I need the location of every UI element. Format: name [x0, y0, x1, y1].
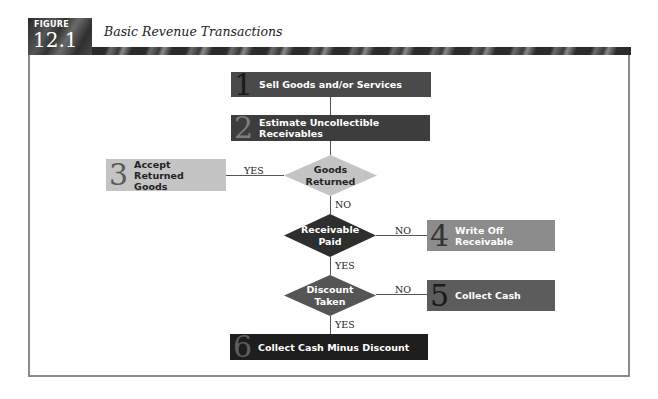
connector-d1-d2 [330, 196, 331, 214]
figure-badge: FIGURE 12.1 [28, 18, 92, 55]
step-1-box: 1 Sell Goods and/or Services [231, 72, 431, 97]
decision-label: Goods Returned [306, 164, 356, 188]
step-number: 5 [430, 283, 449, 309]
decision-label-line2: Returned [306, 176, 356, 188]
decision-receivable-paid: Receivable Paid [284, 214, 376, 257]
step-number: 2 [234, 115, 253, 141]
edge-label-goods-returned-yes: YES [244, 165, 264, 176]
step-number: 6 [233, 334, 252, 360]
decision-label-line1: Goods [306, 164, 356, 176]
step-label: Sell Goods and/or Services [259, 79, 402, 90]
step-label: Accept Returned Goods [134, 159, 214, 192]
connector-1-2 [330, 97, 331, 115]
step-4-box: 4 Write Off Receivable [427, 220, 555, 251]
step-6-box: 6 Collect Cash Minus Discount [230, 334, 428, 360]
decision-label-line1: Receivable [301, 224, 359, 236]
step-number: 4 [430, 223, 449, 249]
edge-label-goods-returned-no: NO [335, 199, 351, 210]
figure-number: 12.1 [33, 29, 78, 51]
decision-label-line1: Discount [306, 284, 353, 296]
step-label: Estimate Uncollectible Receivables [259, 117, 430, 139]
decision-label: Discount Taken [306, 284, 353, 308]
header-stripe [92, 47, 631, 55]
step-label: Collect Cash Minus Discount [258, 342, 409, 353]
decision-label: Receivable Paid [301, 224, 359, 248]
decision-goods-returned: Goods Returned [284, 155, 377, 196]
decision-label-line2: Paid [301, 236, 359, 248]
step-2-box: 2 Estimate Uncollectible Receivables [231, 115, 430, 141]
decision-discount-taken: Discount Taken [284, 275, 376, 316]
connector-2-d1 [330, 141, 331, 155]
edge-label-discount-taken-no: NO [395, 284, 411, 295]
connector-d3-6 [330, 316, 331, 334]
connector-d2-d3 [330, 257, 331, 275]
figure-title: Basic Revenue Transactions [104, 24, 282, 39]
decision-label-line2: Taken [306, 296, 353, 308]
step-number: 1 [234, 72, 253, 98]
step-number: 3 [109, 162, 128, 188]
step-5-box: 5 Collect Cash [427, 280, 555, 311]
edge-label-receivable-paid-yes: YES [335, 260, 355, 271]
edge-label-receivable-paid-no: NO [395, 225, 411, 236]
step-3-box: 3 Accept Returned Goods [106, 159, 226, 191]
step-label: Write Off Receivable [455, 225, 555, 247]
edge-label-discount-taken-yes: YES [335, 319, 355, 330]
step-label: Collect Cash [455, 290, 521, 301]
